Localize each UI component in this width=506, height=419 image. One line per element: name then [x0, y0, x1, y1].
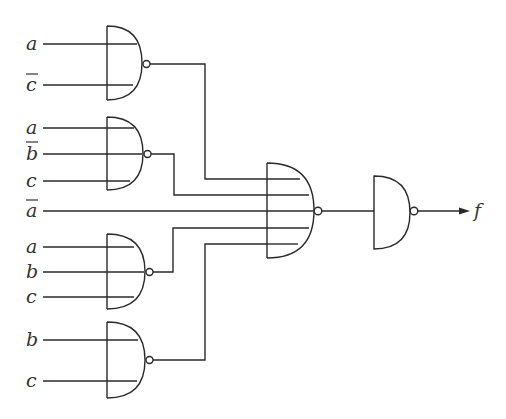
- label-g1-c-bar: c: [26, 73, 37, 95]
- inversion-bubble-6: [410, 207, 418, 215]
- label-g2-a: a: [26, 116, 37, 138]
- wire-g2-out: [151, 154, 267, 195]
- inversion-bubble-2: [144, 151, 151, 158]
- nand-gate-4: [43, 244, 267, 398]
- nand-gate-6: [374, 176, 470, 249]
- label-a-bar: a: [26, 199, 37, 221]
- label-g3-c: c: [26, 285, 37, 307]
- inversion-bubble-4: [146, 357, 153, 364]
- nand-gate-4-body: [107, 322, 145, 398]
- logic-circuit-diagram: a c a b c a a b c b c f: [0, 0, 506, 419]
- arrow-head-icon: [459, 208, 470, 215]
- label-g3-a: a: [26, 235, 37, 257]
- nand-gate-5: [267, 163, 374, 258]
- nand-gate-2: [43, 117, 267, 195]
- label-g4-c: c: [26, 369, 37, 391]
- wire-g1-out: [150, 64, 267, 179]
- nand-gate-6-body: [374, 176, 410, 249]
- inversion-bubble-1: [143, 61, 150, 68]
- label-output-f: f: [472, 199, 484, 221]
- inversion-bubble-5: [314, 207, 322, 215]
- wire-g4-out: [153, 244, 267, 360]
- label-g3-b: b: [26, 260, 38, 282]
- wire-g3-out: [153, 228, 267, 272]
- nand-gate-1: [43, 26, 267, 179]
- nand-gate-3: [43, 228, 267, 309]
- label-g2-b-bar: b: [26, 142, 38, 164]
- label-g1-a: a: [26, 32, 37, 54]
- inversion-bubble-3: [146, 269, 153, 276]
- label-g2-c: c: [26, 169, 37, 191]
- label-g4-b: b: [26, 328, 38, 350]
- nand-gate-1-body: [107, 26, 142, 100]
